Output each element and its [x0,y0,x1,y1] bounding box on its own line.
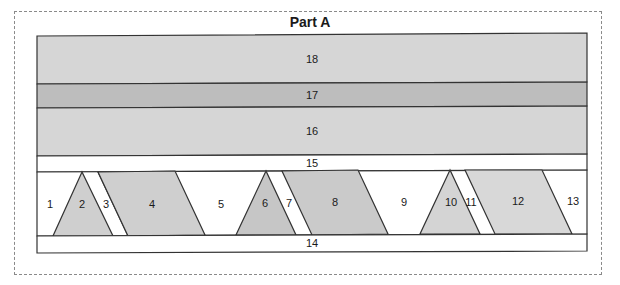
strip-17: 17 [37,82,587,108]
piece-label-6: 6 [262,197,268,209]
piece-label-7: 7 [286,197,292,209]
strip-label-14: 14 [306,237,318,249]
piece-label-9: 9 [401,196,407,208]
strip-18: 18 [37,33,587,84]
piece-label-1: 1 [47,198,53,210]
strip-14: 14 [37,234,587,253]
piece-label-13: 13 [567,195,579,207]
piece-label-4: 4 [149,198,155,210]
strip-label-17: 17 [306,89,318,101]
piece-label-12: 12 [512,195,524,207]
strip-16: 16 [37,106,587,156]
quilt-block-diagram: 18 17 16 15 14 1 2 [0,0,620,285]
strip-label-18: 18 [306,53,318,65]
piece-label-3: 3 [103,198,109,210]
piece-label-2: 2 [79,198,85,210]
piece-label-8: 8 [332,196,338,208]
piece-label-5: 5 [218,198,224,210]
piece-label-11: 11 [465,196,476,208]
piece-label-10: 10 [445,196,457,208]
strip-label-16: 16 [306,125,318,137]
strip-15: 15 [37,154,587,172]
strip-label-15: 15 [306,157,318,169]
